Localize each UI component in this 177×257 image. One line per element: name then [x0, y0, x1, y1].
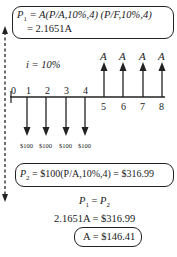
p2-formula: P2 = $100(P/A,10%,4) = $316.99	[20, 168, 154, 184]
period-label-7: 7	[140, 101, 145, 113]
outflow-arrows	[24, 97, 89, 136]
p2-expression: = $100(P/A,10%,4) = $316.99	[30, 168, 154, 179]
inflow-arrows	[101, 62, 166, 97]
dashed-arrow-head-down	[2, 194, 8, 202]
result-text: A = $146.41	[83, 231, 135, 243]
eq-p2-sub: 2	[107, 201, 111, 209]
period-label-6: 6	[121, 101, 126, 113]
outflow-label-4: $100	[78, 140, 91, 152]
period-label-5: 5	[101, 101, 106, 113]
period-label-3: 3	[64, 85, 69, 97]
eq-equals: =	[89, 195, 100, 206]
inflow-label-7: A	[139, 50, 146, 62]
inflow-label-6: A	[119, 50, 126, 62]
period-label-8: 8	[159, 101, 164, 113]
inflow-label-5: A	[100, 50, 107, 62]
period-label-4: 4	[83, 85, 88, 97]
p1-expression: = A(P/A,10%,4) (P/F,10%,4)	[27, 9, 152, 20]
period-label-1: 1	[26, 85, 31, 97]
dashed-arrow-head-up	[2, 26, 8, 34]
p1-formula-line2: = 2.1651A	[27, 23, 72, 35]
outflow-label-2: $100	[39, 140, 52, 152]
equation-solve: 2.1651A = $316.99	[54, 213, 135, 225]
outflow-label-1: $100	[20, 140, 33, 152]
inflow-label-8: A	[158, 50, 165, 62]
period-label-2: 2	[45, 85, 50, 97]
interest-rate-label: i = 10%	[26, 59, 61, 71]
period-label-0: 0	[11, 85, 16, 97]
outflow-label-3: $100	[59, 140, 72, 152]
equation-p1-equals-p2: P1 = P2	[79, 195, 110, 211]
